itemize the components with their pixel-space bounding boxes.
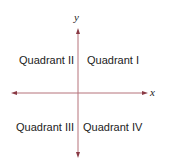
quadrant-2-label: Quadrant II xyxy=(19,54,74,66)
x-axis-left-arrow-icon xyxy=(11,91,17,95)
y-axis-label: y xyxy=(74,11,79,23)
x-axis-label: x xyxy=(150,86,155,98)
y-axis-up-arrow-icon xyxy=(76,28,80,34)
x-axis-right-arrow-icon xyxy=(142,91,148,95)
axes-graphic xyxy=(0,0,170,167)
quadrant-3-label: Quadrant III xyxy=(16,121,74,133)
coordinate-plane-diagram: y x Quadrant I Quadrant II Quadrant III … xyxy=(0,0,170,167)
y-axis-down-arrow-icon xyxy=(76,152,80,158)
quadrant-1-label: Quadrant I xyxy=(87,54,139,66)
quadrant-4-label: Quadrant IV xyxy=(83,121,142,133)
